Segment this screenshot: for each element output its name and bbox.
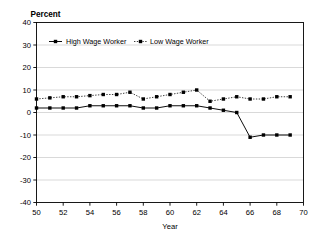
legend-marker (54, 40, 57, 43)
series-marker (155, 106, 158, 109)
ytick-label: 20 (23, 63, 31, 72)
series-marker (102, 93, 105, 96)
series-marker (128, 91, 131, 94)
series-marker (208, 106, 211, 109)
xtick-label: 54 (86, 208, 94, 217)
ytick-label: -30 (20, 176, 31, 185)
series-marker (262, 133, 265, 136)
series-marker (115, 93, 118, 96)
series-marker (288, 95, 291, 98)
series-marker (248, 136, 251, 139)
series-marker (168, 93, 171, 96)
series-marker (222, 109, 225, 112)
series-marker (35, 97, 38, 100)
series-marker (88, 94, 91, 97)
series-marker (62, 106, 65, 109)
series-marker (248, 97, 251, 100)
series-marker (48, 96, 51, 99)
ytick-label: 40 (23, 18, 31, 27)
series-marker (195, 88, 198, 91)
series-marker (222, 97, 225, 100)
series-marker (102, 104, 105, 107)
ytick-label: -40 (20, 198, 31, 207)
series-marker (275, 95, 278, 98)
xtick-label: 56 (112, 208, 120, 217)
ytick-label: 30 (23, 41, 31, 50)
series-marker (182, 91, 185, 94)
ytick-label: -20 (20, 153, 31, 162)
xtick-label: 60 (166, 208, 174, 217)
y-axis-title: Percent (31, 10, 61, 19)
series-marker (208, 100, 211, 103)
xtick-label: 68 (273, 208, 281, 217)
xtick-label: 58 (139, 208, 147, 217)
legend-marker (139, 40, 142, 43)
ytick-label: -10 (20, 131, 31, 140)
series-marker (88, 104, 91, 107)
series-marker (195, 104, 198, 107)
series-marker (62, 95, 65, 98)
xtick-label: 52 (59, 208, 67, 217)
series-marker (235, 95, 238, 98)
ytick-label: 0 (27, 108, 31, 117)
series-marker (75, 106, 78, 109)
series-line (37, 90, 291, 101)
xtick-label: 50 (32, 208, 40, 217)
series-line (37, 106, 291, 138)
series-marker (48, 106, 51, 109)
chart-figure: -40-30-20-100102030405052545658606264666… (0, 0, 317, 234)
xtick-label: 66 (246, 208, 254, 217)
ytick-label: 10 (23, 86, 31, 95)
series-marker (35, 106, 38, 109)
legend-label: Low Wage Worker (150, 37, 209, 46)
xtick-label: 70 (299, 208, 307, 217)
x-axis-title: Year (162, 222, 178, 231)
series-marker (142, 97, 145, 100)
series-marker (235, 111, 238, 114)
series-marker (155, 95, 158, 98)
series-marker (75, 95, 78, 98)
series-marker (182, 104, 185, 107)
line-chart: -40-30-20-100102030405052545658606264666… (0, 0, 317, 234)
legend-label: High Wage Worker (66, 37, 127, 46)
series-marker (288, 133, 291, 136)
series-marker (275, 133, 278, 136)
series-marker (115, 104, 118, 107)
xtick-label: 62 (192, 208, 200, 217)
xtick-label: 64 (219, 208, 227, 217)
series-marker (168, 104, 171, 107)
series-marker (262, 97, 265, 100)
series-marker (142, 106, 145, 109)
series-marker (128, 104, 131, 107)
